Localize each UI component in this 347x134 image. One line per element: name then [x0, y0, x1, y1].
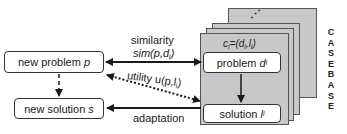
similarity-formula-close: )	[171, 47, 175, 59]
casebase-label: C A S E B A S E	[326, 27, 336, 112]
similarity-formula-main: sim(p,d	[133, 47, 169, 59]
casebase-letter: E	[326, 59, 336, 70]
casebase-letter: A	[326, 38, 336, 49]
casebase-letter: S	[326, 48, 336, 59]
casebase-letter: A	[326, 80, 336, 91]
similarity-formula: sim(p,di)	[133, 48, 174, 60]
utility-formula: u(p,l	[154, 73, 177, 88]
casebase-letter: S	[326, 91, 336, 102]
utility-label-text: utility	[126, 69, 152, 84]
casebase-letter: B	[326, 69, 336, 80]
casebase-letter: E	[326, 101, 336, 112]
casebase-letter: C	[326, 27, 336, 38]
adaptation-label: adaptation	[133, 113, 184, 124]
similarity-label: similarity	[131, 35, 174, 46]
